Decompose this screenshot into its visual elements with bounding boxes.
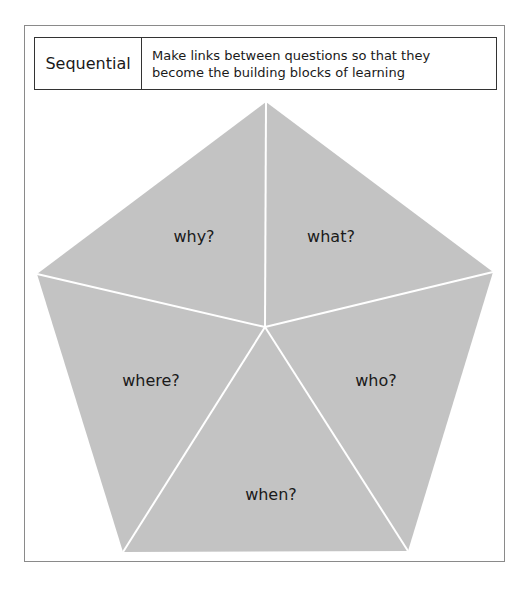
- label-when: when?: [245, 485, 297, 504]
- label-what: what?: [307, 227, 355, 246]
- label-who: who?: [355, 371, 397, 390]
- label-why: why?: [173, 227, 214, 246]
- question-pentagon: why? what? who? when? where?: [0, 0, 529, 593]
- label-where: where?: [122, 371, 180, 390]
- divider-top: [265, 102, 266, 327]
